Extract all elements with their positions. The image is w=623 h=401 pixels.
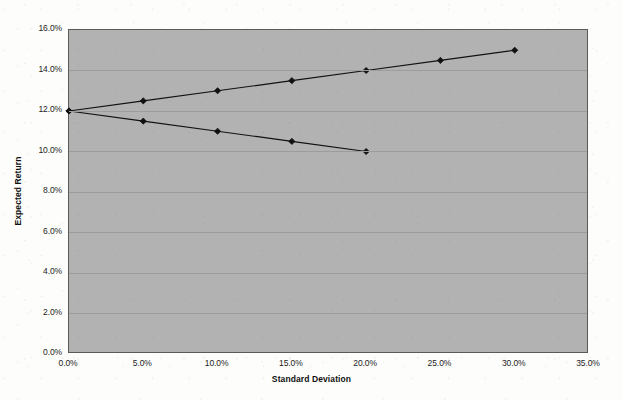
data-point-marker [140,98,146,104]
plot-area [68,29,588,353]
x-tick-label: 10.0% [187,358,247,368]
x-tick-label: 35.0% [558,358,618,368]
x-tick-label: 20.0% [335,358,395,368]
y-tick-label: 4.0% [4,266,62,276]
data-point-marker [512,47,518,53]
x-tick-label: 5.0% [112,358,172,368]
x-tick-label: 25.0% [409,358,469,368]
x-tick-label: 15.0% [261,358,321,368]
gridline-horizontal [69,111,587,112]
y-tick-label: 10.0% [4,145,62,155]
data-point-marker [140,118,146,124]
y-tick-label: 6.0% [4,226,62,236]
gridline-horizontal [69,151,587,152]
data-point-marker [214,88,220,94]
chart-container: Expected Return Standard Deviation 0.0%2… [0,0,623,401]
y-tick-label: 2.0% [4,307,62,317]
data-point-marker [437,57,443,63]
gridline-horizontal [69,313,587,314]
y-tick-label: 0.0% [4,347,62,357]
gridline-horizontal [69,70,587,71]
y-tick-label: 14.0% [4,64,62,74]
y-tick-label: 12.0% [4,104,62,114]
x-tick-label: 30.0% [484,358,544,368]
gridline-horizontal [69,192,587,193]
data-point-marker [289,138,295,144]
data-point-marker [289,78,295,84]
x-tick-label: 0.0% [38,358,98,368]
x-axis-title: Standard Deviation [0,374,623,384]
y-tick-label: 16.0% [4,23,62,33]
y-tick-label: 8.0% [4,185,62,195]
gridline-horizontal [69,232,587,233]
gridline-horizontal [69,273,587,274]
data-point-marker [214,128,220,134]
